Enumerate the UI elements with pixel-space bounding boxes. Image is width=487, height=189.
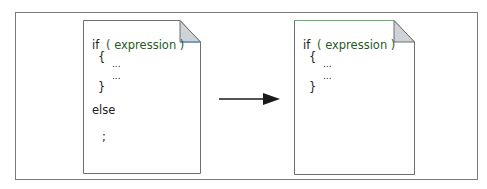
ellipsis-line: ...	[323, 60, 332, 69]
open-brace: {	[98, 52, 105, 64]
left-code-page: if ( expression ) { ... ... } else ;	[83, 20, 201, 174]
close-brace: }	[98, 82, 105, 94]
expression-text: ( expression )	[106, 40, 184, 52]
ellipsis-line: ...	[112, 60, 121, 69]
right-code-page: if ( expression ) { ... ... }	[294, 20, 415, 175]
ellipsis-line: ...	[323, 72, 332, 81]
open-brace: {	[309, 52, 316, 64]
transform-arrow	[219, 91, 281, 110]
right-code-block: if ( expression ) { ... ... }	[294, 20, 309, 112]
close-brace: }	[309, 82, 316, 94]
semicolon: ;	[102, 132, 106, 144]
left-code-block: if ( expression ) { ... ... } else ;	[83, 20, 98, 135]
ellipsis-line: ...	[112, 72, 121, 81]
arrow-right-icon	[219, 92, 281, 106]
expression-text: ( expression )	[317, 40, 395, 52]
else-keyword: else	[92, 105, 115, 117]
